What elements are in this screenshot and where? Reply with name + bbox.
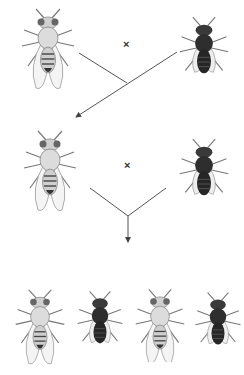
cross-arrows xyxy=(0,0,244,375)
